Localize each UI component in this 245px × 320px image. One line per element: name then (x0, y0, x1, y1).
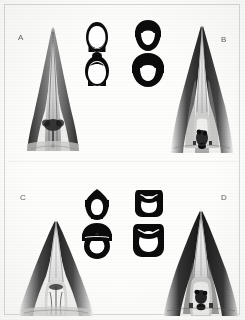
panel-label-a: A (18, 34, 24, 42)
panel-label-b: B (221, 36, 227, 44)
cross-section-b2 (130, 52, 166, 88)
cross-section-c1 (82, 188, 112, 221)
row-divider (8, 161, 237, 162)
cross-section-a2 (81, 52, 113, 87)
figure-plate: A (0, 0, 245, 320)
cross-section-c2 (80, 222, 114, 260)
panel-label-d: D (221, 194, 227, 202)
cross-section-d1 (134, 188, 164, 218)
cross-section-d2 (132, 222, 165, 258)
cross-section-b1 (132, 19, 164, 52)
specimen-figure-d (162, 206, 240, 318)
cross-section-a1 (82, 21, 112, 53)
panel-label-c: C (20, 194, 26, 202)
specimen-figure-a (22, 24, 84, 154)
